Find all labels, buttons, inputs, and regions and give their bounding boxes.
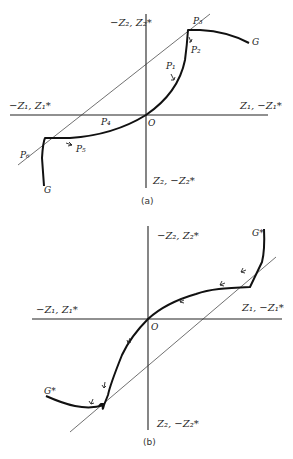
- a-label-axis-right: Z₁, −Z₁*: [240, 101, 282, 111]
- b-caption: (b): [143, 437, 156, 447]
- a-label-axis-bottom: Z₂, −Z₂*: [153, 176, 195, 186]
- a-label-p5: P₅: [76, 145, 86, 154]
- a-arrow-p2: [189, 37, 192, 42]
- b-label-axis-right: Z₁, −Z₁*: [242, 303, 284, 313]
- b-label-axis-left: −Z₁, Z₁*: [36, 305, 78, 315]
- a-secant-line: [18, 14, 210, 165]
- b-label-axis-top: −Z₂, Z₂*: [157, 231, 199, 241]
- a-label-G-lower: G: [44, 186, 51, 195]
- b-arrow-2: [220, 281, 225, 286]
- a-label-axis-top: −Z₂, Z₂*: [110, 18, 152, 28]
- a-arrow-p5: [66, 142, 72, 146]
- b-label-G-star-lower: G*: [44, 387, 56, 396]
- b-arrow-6: [89, 399, 94, 404]
- a-label-p6: P₆: [20, 151, 30, 160]
- b-arrow-1: [241, 268, 246, 273]
- a-arrow-p1: [171, 74, 175, 80]
- a-label-p3: P₃: [193, 17, 203, 26]
- a-label-p2: P₂: [191, 46, 201, 55]
- a-label-p1: P₁: [166, 62, 176, 71]
- a-label-p4: P₄: [101, 118, 111, 127]
- a-caption: (a): [141, 196, 154, 206]
- b-label-origin: O: [151, 323, 158, 332]
- b-label-G-star-upper: G*: [252, 229, 264, 238]
- b-arrow-5: [102, 382, 106, 388]
- a-label-G-upper: G: [252, 38, 259, 47]
- b-label-axis-bottom: Z₂, −Z₂*: [157, 419, 199, 429]
- a-label-origin: O: [148, 119, 155, 128]
- a-label-axis-left: −Z₁, Z₁*: [9, 101, 51, 111]
